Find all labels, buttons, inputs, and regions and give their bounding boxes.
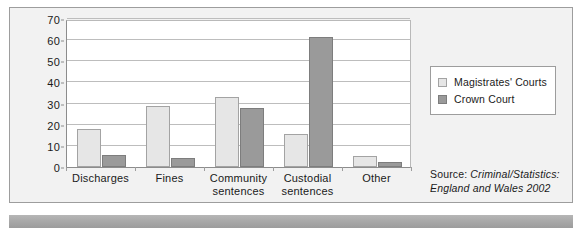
chart-panel: 010203040506070 DischargesFinesCommunity… bbox=[9, 7, 573, 203]
y-tick-label: 40 bbox=[47, 77, 60, 89]
y-tick-mark bbox=[61, 168, 64, 169]
x-axis-labels: DischargesFinesCommunitysentencesCustodi… bbox=[66, 170, 411, 204]
bar-group bbox=[205, 21, 274, 167]
x-axis-label: Communitysentences bbox=[204, 172, 273, 198]
bar bbox=[284, 134, 308, 167]
bar-group bbox=[136, 21, 205, 167]
bar bbox=[146, 106, 170, 167]
y-tick-mark bbox=[61, 104, 64, 105]
bar bbox=[309, 37, 333, 167]
y-tick-label: 0 bbox=[54, 162, 60, 174]
y-tick-mark bbox=[61, 20, 64, 21]
source-note: Source: Criminal/Statistics: England and… bbox=[430, 168, 570, 195]
bar-group bbox=[274, 21, 343, 167]
x-axis-label-line: sentences bbox=[273, 185, 342, 198]
y-tick-label: 70 bbox=[47, 14, 60, 26]
source-title-line1: Criminal/Statistics: bbox=[470, 168, 559, 180]
gridline bbox=[67, 18, 410, 19]
x-axis-label: Other bbox=[342, 172, 411, 185]
x-axis-label-line: Other bbox=[342, 172, 411, 185]
plot-area bbox=[66, 20, 411, 168]
legend-entry-magistrates-courts: Magistrates' Courts bbox=[438, 74, 548, 90]
bar bbox=[171, 158, 195, 168]
source-prefix: Source: bbox=[430, 168, 470, 180]
x-tick-mark bbox=[66, 167, 67, 171]
bar-group bbox=[343, 21, 412, 167]
x-tick-mark bbox=[273, 167, 274, 171]
y-axis: 010203040506070 bbox=[34, 20, 64, 168]
chart-legend: Magistrates' Courts Crown Court bbox=[430, 66, 556, 115]
x-axis-label: Discharges bbox=[66, 172, 135, 185]
bar bbox=[77, 129, 101, 167]
x-tick-mark bbox=[135, 167, 136, 171]
x-tick-mark bbox=[411, 167, 412, 171]
y-tick-label: 10 bbox=[47, 141, 60, 153]
bar bbox=[378, 162, 402, 167]
bar-chart-figure: 010203040506070 DischargesFinesCommunity… bbox=[0, 0, 582, 232]
y-tick-mark bbox=[61, 83, 64, 84]
x-tick-mark bbox=[342, 167, 343, 171]
bar-group bbox=[67, 21, 136, 167]
bars-layer bbox=[67, 21, 410, 167]
y-tick-mark bbox=[61, 62, 64, 63]
x-axis-label-line: Fines bbox=[135, 172, 204, 185]
legend-entry-label: Crown Court bbox=[454, 93, 515, 105]
y-tick-label: 60 bbox=[47, 35, 60, 47]
y-tick-label: 50 bbox=[47, 56, 60, 68]
x-axis-label-line: Custodial bbox=[273, 172, 342, 185]
bar bbox=[240, 108, 264, 167]
bar bbox=[353, 156, 377, 167]
footer-band bbox=[9, 215, 573, 228]
legend-swatch-icon bbox=[438, 78, 447, 87]
bar bbox=[102, 155, 126, 167]
x-axis-label: Custodialsentences bbox=[273, 172, 342, 198]
y-tick-mark bbox=[61, 125, 64, 126]
legend-entry-label: Magistrates' Courts bbox=[454, 76, 547, 88]
x-tick-mark bbox=[204, 167, 205, 171]
y-tick-mark bbox=[61, 146, 64, 147]
source-title-line2: England and Wales 2002 bbox=[430, 182, 550, 194]
bar bbox=[215, 97, 239, 167]
x-axis-label-line: sentences bbox=[204, 185, 273, 198]
x-axis-label-line: Discharges bbox=[66, 172, 135, 185]
y-tick-mark bbox=[61, 41, 64, 42]
legend-swatch-icon bbox=[438, 95, 447, 104]
x-axis-label: Fines bbox=[135, 172, 204, 185]
y-tick-label: 30 bbox=[47, 99, 60, 111]
x-axis-label-line: Community bbox=[204, 172, 273, 185]
legend-entry-crown-court: Crown Court bbox=[438, 91, 548, 107]
y-tick-label: 20 bbox=[47, 120, 60, 132]
